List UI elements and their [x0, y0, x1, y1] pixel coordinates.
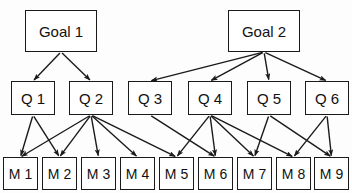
edge-q6-to-m9	[327, 116, 331, 155]
metric-node-m5[interactable]: M 5	[159, 157, 194, 190]
edge-q1-to-m1	[21, 116, 33, 155]
question-node-q6[interactable]: Q 6	[305, 81, 349, 115]
edge-q2-to-m5	[92, 116, 175, 157]
metric-label: M 1	[9, 166, 32, 182]
metric-label: M 3	[87, 166, 110, 182]
question-label: Q 1	[21, 90, 45, 107]
goal-node-g1[interactable]: Goal 1	[25, 10, 97, 52]
question-node-q1[interactable]: Q 1	[11, 81, 55, 115]
metric-node-m7[interactable]: M 7	[237, 157, 272, 190]
metric-label: M 4	[126, 166, 149, 182]
question-node-q3[interactable]: Q 3	[128, 81, 172, 115]
metric-node-m1[interactable]: M 1	[3, 157, 38, 190]
metric-node-m2[interactable]: M 2	[42, 157, 77, 190]
question-label: Q 4	[198, 90, 222, 107]
metric-label: M 9	[320, 166, 343, 182]
metric-node-m3[interactable]: M 3	[81, 157, 116, 190]
question-node-q2[interactable]: Q 2	[69, 81, 113, 115]
edge-g1-to-q2	[62, 53, 90, 80]
goal-label: Goal 1	[39, 23, 83, 40]
metric-label: M 5	[165, 166, 188, 182]
metric-label: M 6	[204, 166, 227, 182]
edge-q2-to-m4	[92, 116, 136, 156]
metric-label: M 7	[243, 166, 266, 182]
metric-label: M 8	[282, 166, 305, 182]
edge-g2-to-q5	[264, 53, 269, 79]
question-label: Q 6	[315, 90, 339, 107]
question-label: Q 5	[257, 90, 281, 107]
edge-q2-to-m2	[60, 116, 90, 156]
goal-label: Goal 2	[242, 23, 286, 40]
edge-g2-to-q3	[151, 52, 262, 80]
edge-q4-to-m7	[211, 116, 253, 156]
metric-label: M 2	[48, 166, 71, 182]
metric-node-m6[interactable]: M 6	[198, 157, 233, 190]
edge-g1-to-q1	[34, 53, 60, 80]
question-label: Q 3	[138, 90, 162, 107]
metric-node-m4[interactable]: M 4	[120, 157, 155, 190]
metric-node-m9[interactable]: M 9	[314, 157, 349, 190]
question-node-q4[interactable]: Q 4	[188, 81, 232, 115]
metric-node-m8[interactable]: M 8	[276, 157, 311, 190]
edge-q4-to-m6	[210, 116, 215, 155]
edge-g2-to-q4	[211, 53, 262, 81]
edge-g2-to-q6	[265, 53, 325, 81]
question-label: Q 2	[79, 90, 103, 107]
goal-question-metric-diagram: Goal 1Goal 2Q 1Q 2Q 3Q 4Q 5Q 6M 1M 2M 3M…	[0, 0, 352, 193]
goal-node-g2[interactable]: Goal 2	[228, 10, 300, 52]
question-node-q5[interactable]: Q 5	[247, 81, 291, 115]
edge-q2-to-m3	[91, 116, 98, 155]
edge-q5-to-m7	[255, 116, 269, 155]
